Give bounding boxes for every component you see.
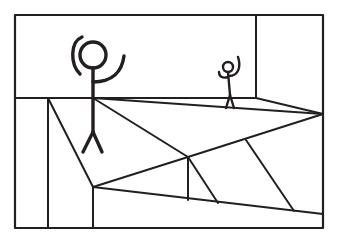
canvas-background <box>0 0 339 242</box>
scene-svg <box>0 0 339 242</box>
drawing-canvas <box>0 0 339 242</box>
